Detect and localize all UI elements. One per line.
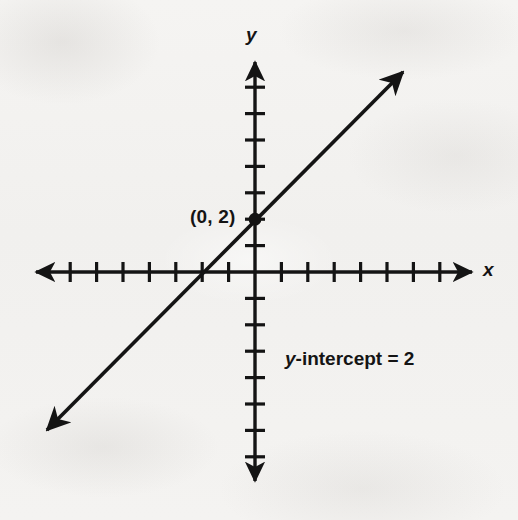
annotation-variable: y [285, 348, 296, 369]
y-intercept-annotation: y-intercept = 2 [285, 348, 414, 370]
point-coordinate-label: (0, 2) [190, 206, 236, 228]
x-axis-label: x [483, 259, 494, 281]
y-intercept-point-marker [249, 213, 262, 226]
plotted-line-series [47, 72, 403, 430]
line-y-equals-x-plus-2 [47, 72, 403, 430]
annotation-rest: -intercept = 2 [296, 348, 415, 369]
coordinate-plane-svg [0, 0, 518, 520]
graph-figure: y x (0, 2) y-intercept = 2 [0, 0, 518, 520]
y-axis-label: y [246, 24, 257, 46]
